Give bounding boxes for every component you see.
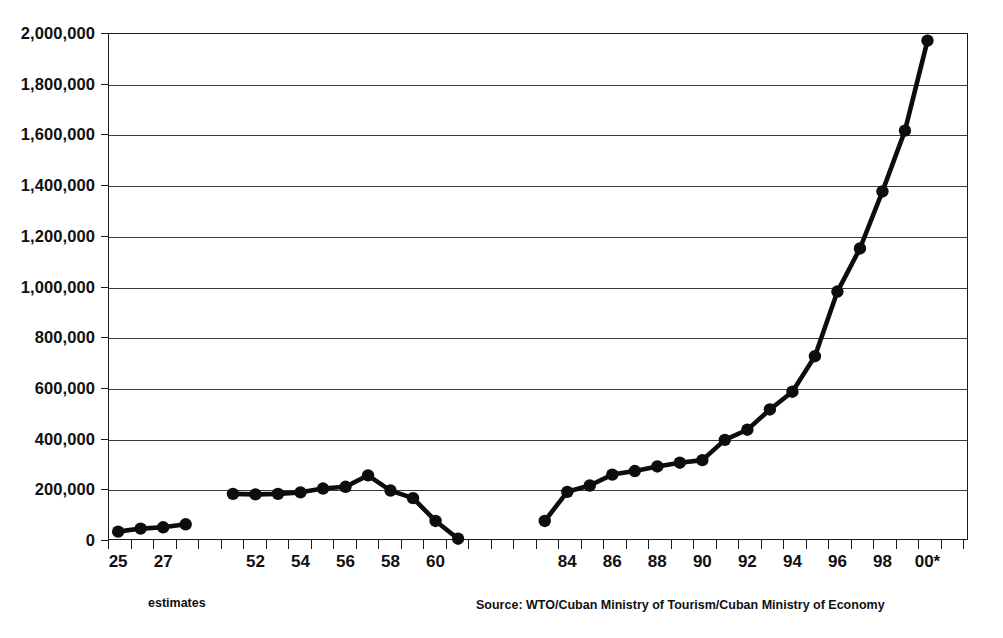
y-axis-labels: 0200,000400,000600,000800,0001,000,0001,… [0, 0, 95, 638]
x-axis-tick-mark [356, 540, 357, 549]
x-axis-tick-mark [918, 540, 919, 549]
gridline [109, 237, 967, 238]
x-axis-tick-label: 52 [246, 552, 265, 572]
x-axis-tick-mark [851, 540, 852, 549]
gridline [109, 288, 967, 289]
x-axis-tick-mark [693, 540, 694, 549]
x-axis-tick-mark [243, 540, 244, 549]
x-axis-tick-mark [828, 540, 829, 549]
x-axis-tick-mark [806, 540, 807, 549]
chart-root: 0200,000400,000600,000800,0001,000,0001,… [0, 0, 1003, 638]
x-axis-tick-mark [671, 540, 672, 549]
estimates-annotation: estimates [148, 596, 206, 610]
y-axis-tick-label: 1,800,000 [21, 74, 95, 93]
x-axis-tick-mark [603, 540, 604, 549]
x-axis-tick-label: 25 [109, 552, 128, 572]
x-axis-tick-label: 98 [873, 552, 892, 572]
gridline [109, 389, 967, 390]
x-axis-tick-mark [536, 540, 537, 549]
x-axis-tick-mark [558, 540, 559, 549]
x-axis-tick-label: 84 [558, 552, 577, 572]
x-axis-tick-mark [513, 540, 514, 549]
x-axis-tick-mark [423, 540, 424, 549]
x-axis-tick-mark [468, 540, 469, 549]
x-axis-tick-mark [896, 540, 897, 549]
plot-area [108, 33, 968, 540]
x-axis-tick-mark [378, 540, 379, 549]
x-axis-tick-mark [491, 540, 492, 549]
x-axis-tick-mark [648, 540, 649, 549]
x-axis-tick-mark [333, 540, 334, 549]
x-axis-tick-mark [176, 540, 177, 549]
x-axis-tick-label: 92 [738, 552, 757, 572]
x-axis-tick-mark [446, 540, 447, 549]
gridline [109, 490, 967, 491]
gridline [109, 338, 967, 339]
x-axis-tick-mark [783, 540, 784, 549]
x-axis-tick-mark [131, 540, 132, 549]
gridline [109, 440, 967, 441]
x-axis-tick-mark [626, 540, 627, 549]
x-axis-tick-mark [581, 540, 582, 549]
x-axis-tick-label: 60 [426, 552, 445, 572]
x-axis-tick-mark [401, 540, 402, 549]
x-axis-tick-mark [873, 540, 874, 549]
x-axis-tick-label: 56 [336, 552, 355, 572]
x-axis-tick-mark [221, 540, 222, 549]
y-axis-tick-label: 1,000,000 [21, 277, 95, 296]
y-axis-tick-label: 0 [86, 531, 95, 550]
y-axis-tick-label: 200,000 [35, 480, 95, 499]
x-axis-tick-mark [153, 540, 154, 549]
gridline [109, 186, 967, 187]
gridline [109, 135, 967, 136]
x-axis-tick-label: 94 [783, 552, 802, 572]
x-axis-tick-label: 88 [648, 552, 667, 572]
x-axis-tick-label: 96 [828, 552, 847, 572]
x-axis-tick-mark [963, 540, 964, 549]
x-axis-tick-label: 00* [915, 552, 941, 572]
x-axis-tick-mark [108, 540, 109, 549]
x-axis-tick-mark [716, 540, 717, 549]
x-axis-tick-mark [311, 540, 312, 549]
y-axis-tick-label: 1,200,000 [21, 226, 95, 245]
x-axis-tick-mark [738, 540, 739, 549]
y-axis-tick-label: 1,600,000 [21, 125, 95, 144]
y-axis-tick-label: 1,400,000 [21, 176, 95, 195]
gridline [109, 85, 967, 86]
x-axis-tick-label: 58 [381, 552, 400, 572]
y-axis-tick-label: 2,000,000 [21, 24, 95, 43]
x-axis-tick-label: 27 [154, 552, 173, 572]
x-axis-tick-mark [761, 540, 762, 549]
x-axis-tick-label: 86 [603, 552, 622, 572]
x-axis-tick-mark [288, 540, 289, 549]
x-axis-tick-label: 54 [291, 552, 310, 572]
x-axis-tick-mark [266, 540, 267, 549]
source-annotation: Source: WTO/Cuban Ministry of Tourism/Cu… [476, 598, 885, 612]
y-axis-tick-label: 400,000 [35, 429, 95, 448]
x-axis-tick-mark [941, 540, 942, 549]
y-axis-tick-label: 800,000 [35, 328, 95, 347]
x-axis-tick-label: 90 [693, 552, 712, 572]
y-axis-tick-label: 600,000 [35, 378, 95, 397]
x-axis-tick-mark [198, 540, 199, 549]
